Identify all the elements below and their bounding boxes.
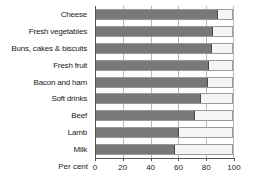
bar-segment-value (96, 44, 212, 53)
category-label-cell: Beef (0, 107, 91, 124)
category-label-cell: Fresh fruit (0, 57, 91, 74)
category-label: Beef (71, 111, 87, 120)
axis-tick-label: 60 (174, 163, 183, 172)
bars-layer (96, 6, 233, 158)
bar-segment-value (96, 61, 209, 70)
axis-tick-mark (234, 158, 235, 161)
x-axis-title: Per cent (0, 162, 88, 171)
category-label: Cheese (61, 10, 87, 19)
plot-area (95, 6, 234, 158)
axis-tick-mark (178, 158, 179, 161)
category-label: Milk (74, 145, 87, 154)
category-label-cell: Bacon and ham (0, 74, 91, 91)
bar-row (96, 74, 233, 91)
axis-tick-mark (206, 158, 207, 161)
bar-track (96, 60, 233, 71)
category-label: Lamb (68, 128, 87, 137)
category-label-cell: Cheese (0, 6, 91, 23)
bar-track (96, 9, 233, 20)
bar-row (96, 141, 233, 158)
bar-row (96, 124, 233, 141)
axis-tick-mark (123, 158, 124, 161)
category-label: Fresh fruit (53, 61, 87, 70)
category-label-cell: Fresh vegetables (0, 23, 91, 40)
bar-segment-value (96, 78, 208, 87)
bar-track (96, 43, 233, 54)
category-label: Buns, cakes & biscuits (11, 44, 87, 53)
bar-segment-value (96, 10, 218, 19)
bar-row (96, 107, 233, 124)
bar-row (96, 40, 233, 57)
bar-track (96, 127, 233, 138)
axis-tick-label: 0 (93, 163, 97, 172)
bar-row (96, 90, 233, 107)
axis-tick-label: 100 (227, 163, 240, 172)
category-label-cell: Milk (0, 141, 91, 158)
category-label: Fresh vegetables (29, 27, 87, 36)
bar-row (96, 57, 233, 74)
category-label-cell: Soft drinks (0, 90, 91, 107)
bar-segment-value (96, 27, 213, 36)
bar-segment-value (96, 94, 201, 103)
axis-tick-label: 20 (118, 163, 127, 172)
bar-segment-value (96, 111, 195, 120)
category-label-cell: Buns, cakes & biscuits (0, 40, 91, 57)
bar-track (96, 26, 233, 37)
axis-line (95, 158, 234, 159)
bar-row (96, 23, 233, 40)
bar-track (96, 144, 233, 155)
category-label: Bacon and ham (34, 78, 87, 87)
bar-chart: CheeseFresh vegetablesBuns, cakes & bisc… (0, 0, 254, 190)
axis-tick-label: 80 (202, 163, 211, 172)
bar-track (96, 110, 233, 121)
axis-tick-mark (95, 158, 96, 161)
bar-row (96, 6, 233, 23)
category-label: Soft drinks (51, 94, 87, 103)
bar-segment-value (96, 145, 175, 154)
bar-track (96, 93, 233, 104)
category-axis: CheeseFresh vegetablesBuns, cakes & bisc… (0, 6, 91, 158)
bar-segment-value (96, 128, 179, 137)
axis-tick-label: 40 (146, 163, 155, 172)
bar-track (96, 77, 233, 88)
category-label-cell: Lamb (0, 124, 91, 141)
axis-tick-mark (151, 158, 152, 161)
value-axis: 020406080100 (95, 158, 234, 182)
